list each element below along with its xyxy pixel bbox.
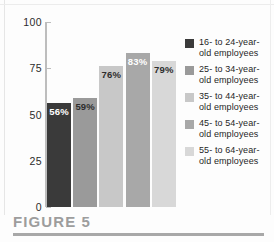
legend-swatch-icon xyxy=(185,147,194,156)
y-axis-tick: 50 xyxy=(0,109,52,121)
bar-value-label: 76% xyxy=(99,69,123,80)
bar-chart-plot: 0255075100 56%59%76%83%79% xyxy=(0,0,180,215)
legend-swatch-icon xyxy=(185,120,194,129)
figure-container: 0255075100 56%59%76%83%79% 16- to 24-yea… xyxy=(0,0,274,242)
legend-item-label: 25- to 34-year-old employees xyxy=(199,64,271,86)
bar-value-label: 59% xyxy=(73,101,97,112)
legend-swatch-icon xyxy=(185,93,194,102)
y-axis-tick-label: 75 xyxy=(30,62,42,74)
caption-divider xyxy=(13,233,264,236)
bar: 59% xyxy=(73,98,97,207)
legend-item-label: 45- to 54-year-old employees xyxy=(199,118,271,140)
y-axis-tick-label: 100 xyxy=(23,16,42,28)
y-axis-tick: 100 xyxy=(0,16,52,28)
chart-legend: 16- to 24-year-old employees25- to 34-ye… xyxy=(185,37,271,172)
bar: 76% xyxy=(99,66,123,207)
legend-item: 25- to 34-year-old employees xyxy=(185,64,271,86)
bar-group: 56%59%76%83%79% xyxy=(47,22,178,207)
y-axis-tick-label: 25 xyxy=(30,155,42,167)
legend-item-label: 55- to 64-year-old employees xyxy=(199,145,271,167)
y-axis-tick: 25 xyxy=(0,155,52,167)
bar-value-label: 56% xyxy=(47,106,71,117)
bar-value-label: 83% xyxy=(126,56,150,67)
y-axis-tick: 75 xyxy=(0,62,52,74)
y-axis-tick-label: 50 xyxy=(30,109,42,121)
bar-value-label: 79% xyxy=(152,64,176,75)
legend-item-label: 16- to 24-year-old employees xyxy=(199,37,271,59)
bar: 83% xyxy=(126,53,150,207)
legend-item: 45- to 54-year-old employees xyxy=(185,118,271,140)
bar: 79% xyxy=(152,61,176,207)
y-axis-tick-label: 0 xyxy=(36,201,42,213)
legend-item: 55- to 64-year-old employees xyxy=(185,145,271,167)
figure-caption: FIGURE 5 xyxy=(13,213,91,230)
legend-item: 35- to 44-year-old employees xyxy=(185,91,271,113)
legend-item: 16- to 24-year-old employees xyxy=(185,37,271,59)
legend-item-label: 35- to 44-year-old employees xyxy=(199,91,271,113)
bar: 56% xyxy=(47,103,71,207)
y-axis-tick: 0 xyxy=(0,201,52,213)
legend-swatch-icon xyxy=(185,39,194,48)
legend-swatch-icon xyxy=(185,66,194,75)
